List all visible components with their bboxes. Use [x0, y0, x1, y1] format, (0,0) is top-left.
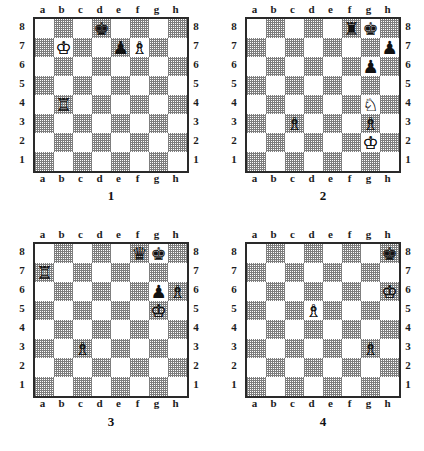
square-h7[interactable]	[168, 263, 187, 282]
white-bishop-icon[interactable]: ♗	[361, 339, 380, 358]
square-f8[interactable]: ♜	[342, 19, 361, 38]
square-f1[interactable]	[130, 152, 149, 171]
square-e2[interactable]	[323, 133, 342, 152]
square-c5[interactable]	[285, 76, 304, 95]
square-d4[interactable]	[304, 95, 323, 114]
square-d6[interactable]	[304, 282, 323, 301]
square-h6[interactable]: ♔	[380, 282, 399, 301]
square-f8[interactable]	[130, 19, 149, 38]
square-h5[interactable]	[168, 76, 187, 95]
square-g8[interactable]: ♚	[361, 19, 380, 38]
square-a2[interactable]	[35, 133, 54, 152]
square-b1[interactable]	[266, 152, 285, 171]
square-a6[interactable]	[247, 282, 266, 301]
square-c6[interactable]	[73, 282, 92, 301]
square-e1[interactable]	[111, 377, 130, 396]
square-f6[interactable]	[130, 57, 149, 76]
square-a5[interactable]	[247, 76, 266, 95]
square-d1[interactable]	[304, 377, 323, 396]
square-e8[interactable]	[323, 19, 342, 38]
square-h7[interactable]	[168, 38, 187, 57]
square-e3[interactable]	[111, 339, 130, 358]
square-c4[interactable]	[285, 95, 304, 114]
square-e3[interactable]	[111, 114, 130, 133]
black-pawn-icon[interactable]: ♟	[149, 282, 168, 301]
square-f2[interactable]	[342, 358, 361, 377]
square-f4[interactable]	[130, 320, 149, 339]
square-f3[interactable]	[342, 114, 361, 133]
square-h1[interactable]	[168, 377, 187, 396]
square-h5[interactable]	[380, 76, 399, 95]
square-f7[interactable]: ♗	[130, 38, 149, 57]
square-e4[interactable]	[111, 320, 130, 339]
square-d2[interactable]	[92, 133, 111, 152]
square-b6[interactable]	[266, 57, 285, 76]
square-h6[interactable]	[168, 57, 187, 76]
square-d8[interactable]	[92, 244, 111, 263]
square-e5[interactable]	[111, 76, 130, 95]
square-c5[interactable]	[73, 76, 92, 95]
square-d7[interactable]	[304, 38, 323, 57]
square-f7[interactable]	[342, 263, 361, 282]
square-g5[interactable]: ♔	[149, 301, 168, 320]
square-g6[interactable]	[361, 282, 380, 301]
square-f2[interactable]	[130, 358, 149, 377]
square-f1[interactable]	[342, 152, 361, 171]
square-g2[interactable]	[361, 358, 380, 377]
black-king-icon[interactable]: ♚	[149, 244, 168, 263]
square-d3[interactable]	[304, 339, 323, 358]
square-h8[interactable]	[168, 244, 187, 263]
square-g3[interactable]: ♗	[361, 114, 380, 133]
square-c6[interactable]	[73, 57, 92, 76]
square-b2[interactable]	[54, 358, 73, 377]
square-b6[interactable]	[54, 282, 73, 301]
square-g5[interactable]	[361, 301, 380, 320]
square-a8[interactable]	[247, 19, 266, 38]
square-g6[interactable]	[149, 57, 168, 76]
square-c6[interactable]	[285, 57, 304, 76]
square-a4[interactable]	[35, 320, 54, 339]
square-g1[interactable]	[361, 152, 380, 171]
square-d3[interactable]	[304, 114, 323, 133]
square-h6[interactable]: ♗	[168, 282, 187, 301]
square-d3[interactable]	[92, 339, 111, 358]
square-a4[interactable]	[35, 95, 54, 114]
square-e2[interactable]	[111, 133, 130, 152]
square-e2[interactable]	[111, 358, 130, 377]
square-a8[interactable]	[35, 19, 54, 38]
square-g3[interactable]	[149, 114, 168, 133]
square-h8[interactable]: ♚	[380, 244, 399, 263]
square-b3[interactable]	[266, 339, 285, 358]
square-f5[interactable]	[342, 76, 361, 95]
square-b2[interactable]	[54, 133, 73, 152]
square-a7[interactable]	[35, 38, 54, 57]
square-f2[interactable]	[130, 133, 149, 152]
square-a7[interactable]: ♖	[35, 263, 54, 282]
square-c8[interactable]	[73, 19, 92, 38]
square-a1[interactable]	[35, 377, 54, 396]
square-e7[interactable]	[323, 263, 342, 282]
square-h7[interactable]: ♟	[380, 38, 399, 57]
square-g6[interactable]: ♟	[361, 57, 380, 76]
square-c8[interactable]	[285, 19, 304, 38]
square-f7[interactable]	[342, 38, 361, 57]
square-a6[interactable]	[247, 57, 266, 76]
square-h2[interactable]	[168, 358, 187, 377]
square-a4[interactable]	[247, 320, 266, 339]
square-b8[interactable]	[54, 244, 73, 263]
square-b2[interactable]	[266, 133, 285, 152]
square-c8[interactable]	[73, 244, 92, 263]
square-b6[interactable]	[54, 57, 73, 76]
square-h4[interactable]	[168, 95, 187, 114]
square-f5[interactable]	[130, 301, 149, 320]
square-h8[interactable]	[168, 19, 187, 38]
square-c1[interactable]	[73, 377, 92, 396]
black-pawn-icon[interactable]: ♟	[361, 57, 380, 76]
square-f1[interactable]	[342, 377, 361, 396]
square-g5[interactable]	[361, 76, 380, 95]
square-g8[interactable]: ♚	[149, 244, 168, 263]
square-e5[interactable]	[111, 301, 130, 320]
square-g4[interactable]	[361, 320, 380, 339]
square-c7[interactable]	[73, 38, 92, 57]
white-rook-icon[interactable]: ♖	[54, 95, 73, 114]
